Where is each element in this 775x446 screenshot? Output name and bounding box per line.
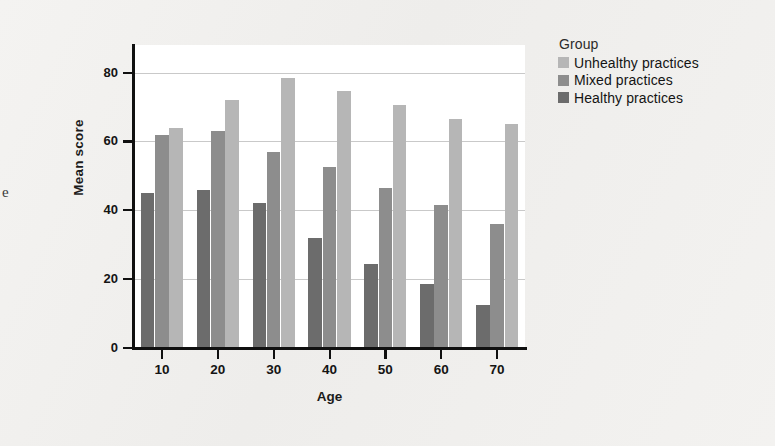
legend-label-healthy: Healthy practices: [574, 90, 683, 106]
bar-60-healthy: [420, 284, 434, 348]
y-tick-label-40: 40: [78, 203, 118, 216]
bar-30-unhealthy: [281, 78, 295, 348]
gridline-y-80: [134, 73, 525, 74]
bar-20-healthy: [197, 190, 211, 348]
x-tick-label-60: 60: [416, 362, 466, 377]
x-tick-label-20: 20: [193, 362, 243, 377]
bar-10-unhealthy: [169, 128, 183, 348]
y-tick-mark-40: [123, 209, 134, 211]
bar-60-unhealthy: [449, 119, 463, 348]
y-axis-line: [132, 44, 135, 349]
plot-panel: [134, 45, 525, 348]
x-tick-mark-40: [329, 349, 331, 359]
legend-entry-healthy: Healthy practices: [558, 89, 758, 107]
x-tick-mark-10: [161, 349, 163, 359]
x-tick-label-70: 70: [472, 362, 522, 377]
y-tick-label-80: 80: [78, 66, 118, 79]
legend-label-unhealthy: Unhealthy practices: [574, 55, 699, 71]
y-tick-mark-80: [123, 72, 134, 74]
x-axis-title: Age: [134, 389, 525, 404]
y-tick-label-60: 60: [78, 134, 118, 147]
bar-30-healthy: [253, 203, 267, 348]
legend-swatch-mixed: [558, 75, 569, 86]
y-axis-tick-labels: 020406080: [72, 0, 118, 446]
y-tick-mark-0: [123, 347, 134, 349]
x-tick-label-10: 10: [137, 362, 187, 377]
bar-40-mixed: [323, 167, 337, 348]
y-tick-mark-20: [123, 278, 134, 280]
legend: Group Unhealthy practicesMixed practices…: [558, 36, 758, 107]
legend-swatch-unhealthy: [558, 57, 569, 68]
bar-40-healthy: [308, 238, 322, 348]
gridline-y-60: [134, 141, 525, 142]
bar-20-mixed: [211, 131, 225, 348]
bar-10-healthy: [141, 193, 155, 348]
x-tick-mark-60: [440, 349, 442, 359]
x-tick-label-30: 30: [249, 362, 299, 377]
x-tick-mark-50: [384, 349, 386, 359]
x-tick-label-50: 50: [360, 362, 410, 377]
legend-swatch-healthy: [558, 92, 569, 103]
bar-40-unhealthy: [337, 91, 351, 348]
y-tick-label-0: 0: [78, 341, 118, 354]
y-tick-label-20: 20: [78, 272, 118, 285]
bar-70-mixed: [490, 224, 504, 348]
plot-area: [134, 45, 525, 348]
legend-label-mixed: Mixed practices: [574, 72, 673, 88]
bar-50-mixed: [379, 188, 393, 348]
bar-50-unhealthy: [393, 105, 407, 348]
bar-70-unhealthy: [505, 124, 519, 348]
legend-entry-unhealthy: Unhealthy practices: [558, 54, 758, 72]
x-tick-mark-20: [217, 349, 219, 359]
x-tick-mark-30: [273, 349, 275, 359]
y-tick-mark-60: [123, 140, 134, 142]
bar-10-mixed: [155, 135, 169, 348]
x-tick-mark-70: [496, 349, 498, 359]
bar-20-unhealthy: [225, 100, 239, 348]
bar-30-mixed: [267, 152, 281, 348]
legend-title: Group: [559, 36, 758, 52]
bar-60-mixed: [434, 205, 448, 348]
legend-entry-mixed: Mixed practices: [558, 72, 758, 90]
legend-entries: Unhealthy practicesMixed practicesHealth…: [558, 54, 758, 107]
bar-70-healthy: [476, 305, 490, 348]
bar-50-healthy: [364, 264, 378, 348]
x-tick-label-40: 40: [305, 362, 355, 377]
